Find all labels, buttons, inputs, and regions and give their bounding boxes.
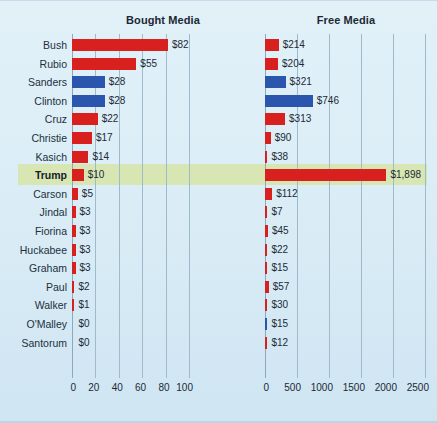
table-row: Santorum$0$12 xyxy=(0,334,437,352)
bar-free-media xyxy=(265,39,279,51)
candidate-label: Walker xyxy=(0,296,67,314)
value-label-bought-media: $0 xyxy=(79,315,90,333)
bar-bought-media xyxy=(72,58,136,70)
axis-tick-right-0: 0 xyxy=(235,380,269,396)
value-label-free-media: $313 xyxy=(289,110,311,128)
candidate-label: Rubio xyxy=(0,55,67,73)
bar-bought-media xyxy=(72,299,74,311)
value-label-bought-media: $28 xyxy=(109,73,126,91)
table-row: Clinton$28$746 xyxy=(0,92,437,110)
table-row: Jindal$3$7 xyxy=(0,203,437,221)
value-label-free-media: $1,898 xyxy=(390,166,421,184)
value-label-bought-media: $2 xyxy=(79,278,90,296)
value-label-bought-media: $3 xyxy=(80,259,91,277)
axis-tick-right-1000: 1000 xyxy=(299,380,333,396)
bar-bought-media xyxy=(72,206,76,218)
bar-free-media xyxy=(265,188,272,200)
value-label-free-media: $90 xyxy=(275,129,292,147)
bar-free-media xyxy=(265,76,286,88)
axis-tick-right-2500: 2500 xyxy=(395,380,429,396)
bar-free-media xyxy=(265,58,278,70)
value-label-bought-media: $3 xyxy=(80,222,91,240)
value-label-free-media: $204 xyxy=(282,55,304,73)
panel-title-free-media: Free Media xyxy=(265,14,427,26)
axis-tick-right-1500: 1500 xyxy=(331,380,365,396)
value-label-bought-media: $28 xyxy=(109,92,126,110)
table-row: Fiorina$3$45 xyxy=(0,222,437,240)
value-label-free-media: $112 xyxy=(276,185,298,203)
bar-bought-media xyxy=(72,225,76,237)
bar-free-media xyxy=(265,132,271,144)
value-label-free-media: $214 xyxy=(283,36,305,54)
table-row: Carson$5$112 xyxy=(0,185,437,203)
candidate-label: Carson xyxy=(0,185,67,203)
panel-title-bought-media: Bought Media xyxy=(72,14,254,26)
bar-free-media xyxy=(265,318,267,330)
axis-tick-left-100: 100 xyxy=(159,380,193,396)
value-label-bought-media: $1 xyxy=(79,296,90,314)
bar-bought-media xyxy=(72,244,76,256)
table-row: Christie$17$90 xyxy=(0,129,437,147)
candidate-label: Kasich xyxy=(0,148,67,166)
value-label-bought-media: $3 xyxy=(80,241,91,259)
bar-free-media xyxy=(265,299,267,311)
table-row: O'Malley$0$15 xyxy=(0,315,437,333)
value-label-free-media: $15 xyxy=(272,315,289,333)
bar-bought-media xyxy=(72,95,105,107)
candidate-label: Santorum xyxy=(0,334,67,352)
candidate-label: Jindal xyxy=(0,203,67,221)
table-row: Graham$3$15 xyxy=(0,259,437,277)
table-row: Trump$10$1,898 xyxy=(0,166,437,184)
bar-bought-media xyxy=(72,281,74,293)
candidate-label: Huckabee xyxy=(0,241,67,259)
value-label-free-media: $30 xyxy=(272,296,289,314)
candidate-label: Graham xyxy=(0,259,67,277)
bar-free-media xyxy=(265,225,268,237)
value-label-free-media: $746 xyxy=(317,92,339,110)
bar-free-media xyxy=(265,113,285,125)
value-label-bought-media: $82 xyxy=(172,36,189,54)
bar-free-media xyxy=(265,151,267,163)
value-label-bought-media: $22 xyxy=(102,110,119,128)
candidate-label: Cruz xyxy=(0,110,67,128)
bar-free-media xyxy=(265,95,313,107)
bar-free-media xyxy=(265,169,386,181)
value-label-free-media: $22 xyxy=(272,241,289,259)
value-label-free-media: $321 xyxy=(290,73,312,91)
table-row: Huckabee$3$22 xyxy=(0,241,437,259)
bar-free-media xyxy=(265,337,267,349)
value-label-free-media: $38 xyxy=(272,148,289,166)
value-label-bought-media: $3 xyxy=(80,203,91,221)
value-label-free-media: $12 xyxy=(272,334,289,352)
candidate-label: Fiorina xyxy=(0,222,67,240)
candidate-label: Clinton xyxy=(0,92,67,110)
candidate-label: Sanders xyxy=(0,73,67,91)
plot-area: Bush$82$214Rubio$55$204Sanders$28$321Cli… xyxy=(0,30,437,380)
table-row: Bush$82$214 xyxy=(0,36,437,54)
table-row: Sanders$28$321 xyxy=(0,73,437,91)
axis-tick-right-2000: 2000 xyxy=(363,380,397,396)
value-label-bought-media: $17 xyxy=(96,129,113,147)
table-row: Paul$2$57 xyxy=(0,278,437,296)
bar-free-media xyxy=(265,206,267,218)
value-label-free-media: $45 xyxy=(272,222,289,240)
bar-bought-media xyxy=(72,39,168,51)
chart-container: Bought Media Free Media Bush$82$214Rubio… xyxy=(0,0,437,423)
bar-bought-media xyxy=(72,188,78,200)
frame-top xyxy=(0,0,437,1)
bar-free-media xyxy=(265,244,267,256)
bar-free-media xyxy=(265,262,267,274)
candidate-label: Bush xyxy=(0,36,67,54)
bar-bought-media xyxy=(72,132,92,144)
axis-area: 02040608010005001000150020002500 xyxy=(0,380,437,402)
value-label-free-media: $15 xyxy=(272,259,289,277)
axis-tick-right-500: 500 xyxy=(267,380,301,396)
table-row: Walker$1$30 xyxy=(0,296,437,314)
table-row: Kasich$14$38 xyxy=(0,148,437,166)
candidate-label: O'Malley xyxy=(0,315,67,333)
table-row: Cruz$22$313 xyxy=(0,110,437,128)
bar-bought-media xyxy=(72,262,76,274)
candidate-label: Trump xyxy=(0,166,67,184)
bar-bought-media xyxy=(72,113,98,125)
value-label-free-media: $7 xyxy=(272,203,283,221)
